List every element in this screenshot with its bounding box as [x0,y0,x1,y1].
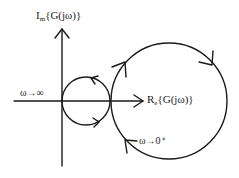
omega-infinity-annotation: ω→∞ [20,88,44,98]
real-axis-label: Re{G(jω)} [147,94,194,107]
real-expr: {G(jω)} [157,93,193,105]
omega-zero-annotation: ω→0⁺ [139,136,166,146]
imaginary-axis-label: Im{G(jω)} [36,10,81,23]
imag-expr: {G(jω)} [45,9,81,21]
large-circle-lower-left-arrow-icon [125,140,137,153]
